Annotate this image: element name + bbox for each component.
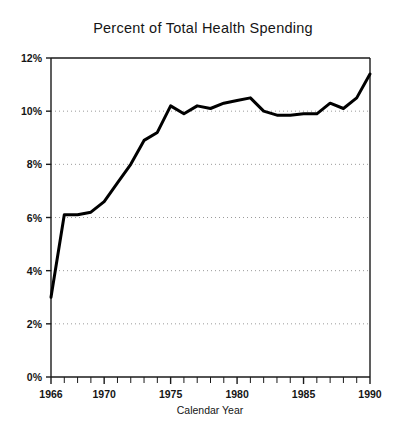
y-axis-tick-label: 4% [27, 265, 43, 277]
y-axis-tick-label: 0% [27, 371, 43, 383]
y-axis-tick-label: 10% [21, 105, 43, 117]
x-axis-tick-label: 1990 [358, 388, 382, 400]
y-axis-tick-label: 12% [21, 52, 43, 64]
x-axis-title: Calendar Year [177, 404, 244, 416]
x-axis-tick-label: 1970 [92, 388, 116, 400]
x-axis: 196619701975198019851990 [39, 377, 382, 400]
x-axis-tick-label: 1966 [39, 388, 63, 400]
y-axis-tick-label: 2% [27, 318, 43, 330]
x-axis-tick-label: 1980 [225, 388, 249, 400]
chart-figure: Percent of Total Health Spending 0%2%4%6… [0, 0, 406, 437]
y-axis: 0%2%4%6%8%10%12% [21, 52, 51, 383]
x-axis-tick-label: 1975 [159, 388, 183, 400]
x-axis-tick-label: 1985 [292, 388, 316, 400]
y-axis-tick-label: 8% [27, 158, 43, 170]
line-chart-plot: 0%2%4%6%8%10%12% 19661970197519801985199… [0, 0, 406, 437]
y-axis-tick-label: 6% [27, 212, 43, 224]
plot-frame [51, 58, 370, 377]
